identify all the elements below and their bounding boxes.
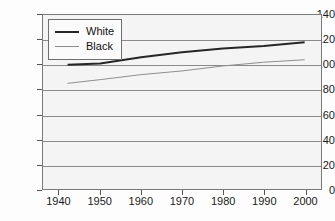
x-tick-mark [264, 190, 265, 195]
x-tick-label: 1990 [242, 196, 286, 207]
x-tick-label: 1950 [78, 196, 122, 207]
legend-swatch-white-icon [55, 31, 79, 33]
x-tick-label: 2000 [284, 196, 328, 207]
x-tick-label: 1940 [36, 196, 80, 207]
x-tick-label: 1970 [160, 196, 204, 207]
y-tick-mark [37, 190, 42, 191]
legend-label-white: White [86, 26, 114, 37]
legend-swatch-black-icon [55, 46, 79, 47]
x-tick-mark [306, 190, 307, 195]
legend-item-white: White [55, 24, 114, 39]
x-tick-mark [141, 190, 142, 195]
legend: White Black [48, 19, 122, 60]
x-tick-mark [182, 190, 183, 195]
legend-item-black: Black [55, 39, 114, 54]
line-chart: 020406080100120140 194019501960197019801… [0, 0, 335, 221]
x-tick-mark [58, 190, 59, 195]
x-tick-label: 1960 [119, 196, 163, 207]
x-tick-mark [100, 190, 101, 195]
legend-label-black: Black [86, 41, 113, 52]
x-tick-label: 1980 [201, 196, 245, 207]
x-tick-mark [223, 190, 224, 195]
